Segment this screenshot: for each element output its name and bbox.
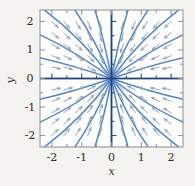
x-tick-label: -2 — [47, 152, 58, 163]
x-tick-label: 0 — [108, 152, 115, 163]
y-tick-label: -2 — [25, 130, 36, 141]
y-tick-label: 1 — [27, 44, 34, 55]
y-tick-label: 0 — [27, 73, 34, 84]
direction-field-figure: -2 -1 0 1 2 2 1 0 -1 -2 x y — [0, 0, 195, 186]
x-tick-label: -1 — [76, 152, 87, 163]
x-tick-label: 1 — [138, 152, 145, 163]
y-tick-label: 2 — [27, 16, 34, 27]
x-axis-title: x — [108, 166, 114, 177]
y-tick-label: -1 — [25, 102, 36, 113]
y-axis-title: y — [4, 78, 15, 84]
x-tick-label: 2 — [168, 152, 175, 163]
